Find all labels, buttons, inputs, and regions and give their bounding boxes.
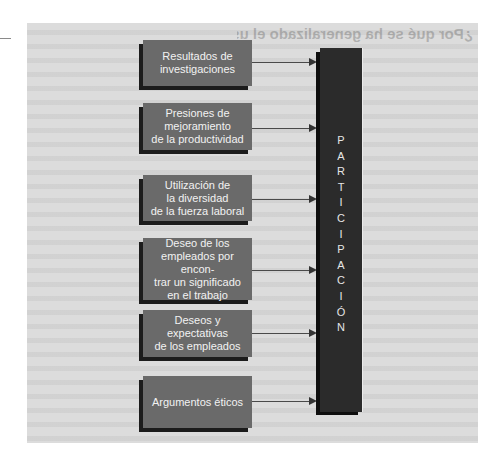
source-box-employee-expectations: Deseos y expectativas de los empleados bbox=[143, 310, 252, 357]
arrow-line bbox=[252, 199, 310, 200]
target-bar-participation: P A R T I C I P A C I Ó N bbox=[320, 48, 363, 412]
target-letter: C bbox=[337, 211, 345, 227]
target-letter: P bbox=[337, 133, 344, 149]
source-box-research-results: Resultados de investigaciones bbox=[143, 40, 252, 86]
target-letter: Ó bbox=[337, 305, 346, 321]
target-letter: I bbox=[339, 195, 342, 211]
arrow-line bbox=[252, 62, 310, 63]
target-letter: I bbox=[339, 289, 342, 305]
target-letter: A bbox=[337, 258, 344, 274]
target-letter: N bbox=[337, 320, 345, 336]
bleed-through-heading: ¿Por qué se ha generalizado el uso de la… bbox=[237, 25, 473, 42]
page-bleed-through bbox=[27, 23, 478, 443]
target-letter: C bbox=[337, 273, 345, 289]
target-letter: A bbox=[337, 149, 344, 165]
arrow-line bbox=[252, 270, 310, 271]
target-letter: R bbox=[337, 164, 345, 180]
target-letter: P bbox=[337, 242, 344, 258]
diagram-panel: ¿Por qué se ha generalizado el uso de la… bbox=[27, 23, 478, 443]
target-letter: I bbox=[339, 227, 342, 243]
target-letter: T bbox=[338, 180, 345, 196]
arrow-line bbox=[252, 401, 310, 402]
source-box-workforce-diversity: Utilización de la diversidad de la fuerz… bbox=[143, 175, 252, 221]
margin-rule bbox=[0, 38, 11, 39]
target-label-vertical: P A R T I C I P A C I Ó N bbox=[320, 133, 362, 336]
source-box-ethical-arguments: Argumentos éticos bbox=[143, 376, 252, 428]
source-box-productivity-pressures: Presiones de mejoramiento de la producti… bbox=[143, 103, 252, 150]
arrow-line bbox=[252, 128, 310, 129]
arrow-line bbox=[252, 333, 310, 334]
source-box-meaningful-work: Deseo de los empleados por encon- trar u… bbox=[143, 238, 252, 300]
